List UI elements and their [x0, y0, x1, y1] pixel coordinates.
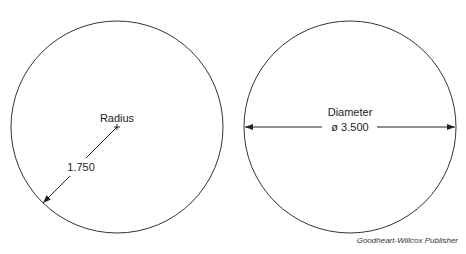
publisher-credit: Goodheart-Willcox Publisher [357, 236, 458, 245]
diameter-value: ø 3.500 [331, 121, 368, 133]
radius-arrow-icon [43, 176, 70, 203]
radius-leader-upper [86, 127, 117, 158]
circle-dimension-diagram: Radius 1.750 Diameter ø 3.500 [0, 0, 466, 254]
radius-value: 1.750 [67, 161, 95, 173]
diameter-figure: Diameter ø 3.500 [244, 21, 456, 233]
diameter-label: Diameter [328, 106, 373, 118]
radius-label: Radius [100, 112, 135, 124]
radius-figure: Radius 1.750 [11, 21, 223, 233]
